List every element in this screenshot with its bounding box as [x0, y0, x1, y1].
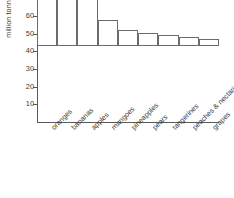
x-axis-label: pears [151, 113, 169, 131]
x-axis-label: oranges [50, 108, 73, 131]
x-axis-labels: orangesbananasapplesmangoespineapplespea… [0, 0, 234, 198]
bar-chart: million tonnes 60 50 40 30 20 10 oranges… [0, 0, 234, 198]
